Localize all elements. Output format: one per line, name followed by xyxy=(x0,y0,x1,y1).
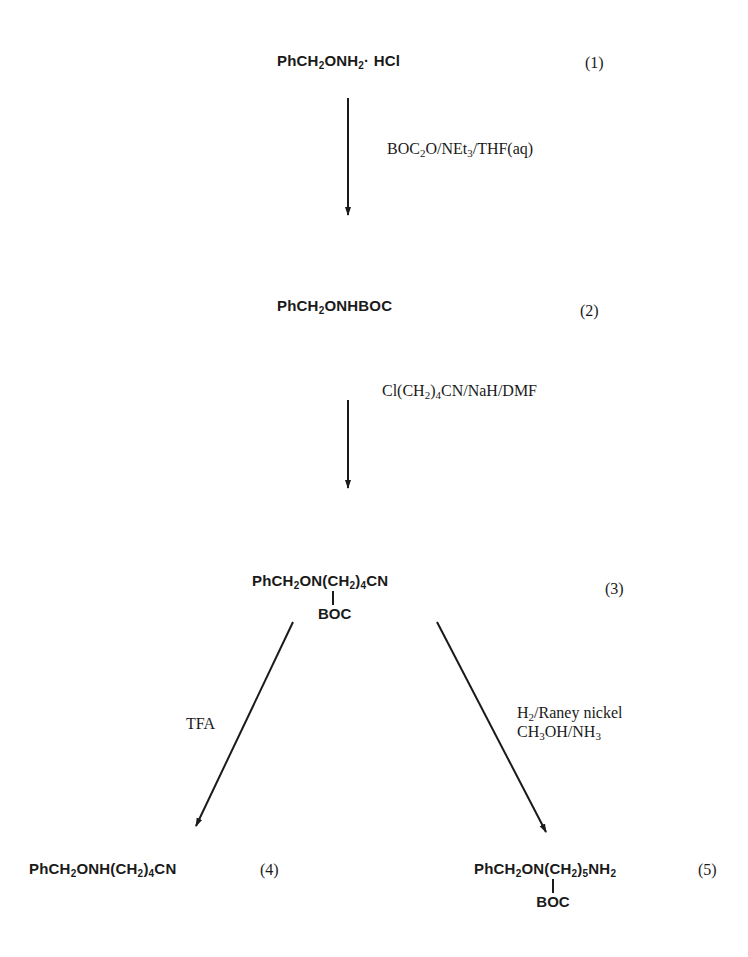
compound-4-number: (4) xyxy=(260,861,279,879)
substituent-text: BOC xyxy=(536,893,569,910)
reagent-text: /THF(aq) xyxy=(473,140,533,157)
compound-4-formula: PhCH2ONH(CH2)4CN xyxy=(29,860,176,877)
compound-5-formula: PhCH2ON(CH2)5NH2 xyxy=(474,860,616,877)
formula-text: NH xyxy=(588,860,610,877)
formula-text: ON(CH xyxy=(521,860,571,877)
compound-1-formula: PhCH2ONH2· HCl xyxy=(277,52,400,69)
bond-line xyxy=(332,591,334,605)
reagent-subscript: 3 xyxy=(595,730,601,742)
reagent-line-2: CH3OH/NH3 xyxy=(517,722,622,741)
bond-line xyxy=(552,879,554,893)
formula-text: ONH(CH xyxy=(76,860,137,877)
compound-1-number: (1) xyxy=(585,54,604,72)
reagent-step-1: BOC2O/NEt3/THF(aq) xyxy=(387,140,533,158)
reaction-arrows xyxy=(0,0,748,957)
compound-5-number: (5) xyxy=(698,861,717,879)
formula-text: ON(CH xyxy=(299,572,349,589)
compound-3-number: (3) xyxy=(605,580,624,598)
formula-text: PhCH xyxy=(474,860,516,877)
formula-text: PhCH xyxy=(277,52,319,69)
formula-subscript: 2 xyxy=(610,868,616,879)
compound-2-formula: PhCH2ONHBOC xyxy=(277,297,392,314)
reagent-line-1: H2/Raney nickel xyxy=(517,703,622,722)
reagent-text: CH xyxy=(517,723,539,740)
compound-2-number: (2) xyxy=(580,302,599,320)
formula-text: ONHBOC xyxy=(324,297,392,314)
reagent-text: BOC xyxy=(387,140,420,157)
reagent-text: O/NEt xyxy=(425,140,467,157)
compound-3-formula: PhCH2ON(CH2)4CN xyxy=(252,572,388,589)
reagent-text: CN/NaH/DMF xyxy=(441,382,537,399)
reagent-text: /Raney nickel xyxy=(534,704,622,721)
formula-text: ONH xyxy=(324,52,358,69)
formula-text: PhCH xyxy=(29,860,71,877)
reagent-text: Cl(CH xyxy=(382,382,425,399)
reagent-text: H xyxy=(517,704,529,721)
formula-text: PhCH xyxy=(252,572,294,589)
formula-text: CN xyxy=(154,860,176,877)
reagent-step-3-tfa: TFA xyxy=(186,715,215,733)
formula-text: CN xyxy=(366,572,388,589)
compound-5-boc-substituent: BOC xyxy=(536,878,570,910)
substituent-text: BOC xyxy=(318,605,351,622)
reagent-text: OH/NH xyxy=(545,723,596,740)
reagent-step-4-hydrogenation: H2/Raney nickel CH3OH/NH3 xyxy=(517,703,622,741)
reagent-step-2: Cl(CH2)4CN/NaH/DMF xyxy=(382,382,537,400)
formula-text: PhCH xyxy=(277,297,319,314)
formula-text: · HCl xyxy=(364,52,400,69)
compound-3-boc-substituent: BOC xyxy=(318,590,348,622)
reagent-text: TFA xyxy=(186,715,215,732)
